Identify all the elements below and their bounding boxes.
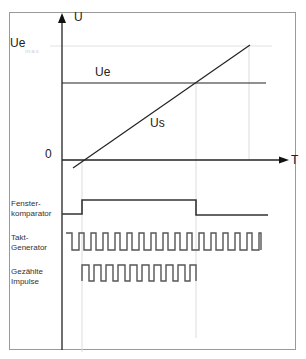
y-axis-label: U: [74, 10, 83, 24]
ue-curve-label: Ue: [95, 65, 110, 79]
gezaehlte-impulse-label: Gezählte Impulse: [11, 267, 43, 287]
ue-max-label-text: Ue: [10, 36, 25, 50]
origin-label: 0: [45, 147, 52, 161]
takt-generator-signal: [66, 233, 261, 250]
x-axis-arrow-icon: [279, 157, 289, 164]
ue-max-subscript: max: [25, 48, 39, 54]
timing-diagram-canvas: [0, 0, 306, 359]
y-axis-arrow-icon: [58, 13, 66, 23]
us-ramp-line: [73, 45, 250, 168]
gezaehlte-impulse-label-line2: Impulse: [11, 277, 43, 287]
fensterkomparator-label: Fenster- komparator: [11, 199, 51, 219]
us-curve-label: Us: [150, 116, 165, 130]
fensterkomparator-label-line2: komparator: [11, 209, 51, 219]
x-axis-label: T: [291, 153, 298, 167]
fensterkomparator-signal: [62, 200, 268, 215]
gezaehlte-impulse-signal: [82, 265, 196, 281]
ue-max-label: Uemax: [10, 36, 40, 50]
takt-generator-label: Takt- Generator: [11, 233, 47, 253]
takt-generator-label-line1: Takt-: [11, 233, 47, 243]
takt-generator-label-line2: Generator: [11, 243, 47, 253]
gezaehlte-impulse-label-line1: Gezählte: [11, 267, 43, 277]
fensterkomparator-label-line1: Fenster-: [11, 199, 51, 209]
